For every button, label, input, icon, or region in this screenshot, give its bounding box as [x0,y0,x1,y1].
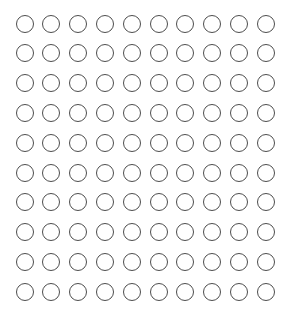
circle-grid [0,0,292,319]
circle-icon [203,193,221,211]
circle-icon [123,74,141,92]
circle-icon [123,164,141,182]
circle-icon [123,104,141,122]
circle-icon [230,223,248,241]
circle-icon [150,253,168,271]
circle-icon [150,164,168,182]
circle-icon [96,134,114,152]
circle-icon [230,283,248,301]
circle-icon [96,193,114,211]
circle-icon [16,253,34,271]
circle-icon [16,283,34,301]
circle-icon [230,253,248,271]
circle-icon [150,134,168,152]
circle-icon [230,134,248,152]
circle-icon [42,164,60,182]
circle-icon [203,253,221,271]
circle-icon [150,44,168,62]
circle-icon [203,15,221,33]
circle-icon [69,15,87,33]
circle-icon [96,15,114,33]
circle-icon [69,44,87,62]
circle-icon [16,15,34,33]
circle-icon [257,223,275,241]
circle-icon [257,134,275,152]
circle-icon [257,104,275,122]
circle-icon [69,223,87,241]
circle-icon [257,193,275,211]
circle-icon [150,193,168,211]
circle-icon [69,134,87,152]
circle-icon [16,104,34,122]
circle-icon [176,283,194,301]
circle-icon [230,74,248,92]
circle-icon [96,104,114,122]
circle-icon [123,44,141,62]
circle-icon [96,223,114,241]
circle-icon [176,15,194,33]
circle-icon [69,104,87,122]
circle-icon [176,253,194,271]
circle-icon [69,253,87,271]
circle-icon [42,193,60,211]
circle-icon [123,223,141,241]
circle-icon [123,134,141,152]
circle-icon [176,104,194,122]
circle-icon [230,193,248,211]
circle-icon [203,74,221,92]
circle-icon [150,104,168,122]
circle-icon [16,164,34,182]
circle-icon [123,253,141,271]
circle-icon [42,15,60,33]
circle-icon [257,74,275,92]
circle-icon [69,164,87,182]
circle-icon [123,283,141,301]
circle-icon [42,74,60,92]
circle-icon [230,164,248,182]
circle-icon [42,223,60,241]
circle-icon [203,223,221,241]
circle-icon [257,253,275,271]
circle-icon [42,283,60,301]
circle-icon [42,104,60,122]
circle-icon [69,193,87,211]
circle-icon [230,44,248,62]
circle-icon [203,283,221,301]
circle-icon [96,283,114,301]
circle-icon [16,223,34,241]
circle-icon [176,223,194,241]
circle-icon [230,15,248,33]
circle-icon [176,74,194,92]
circle-icon [150,223,168,241]
circle-icon [96,44,114,62]
circle-icon [96,253,114,271]
circle-icon [203,134,221,152]
circle-icon [176,164,194,182]
circle-icon [123,193,141,211]
circle-icon [96,164,114,182]
circle-icon [96,74,114,92]
circle-icon [257,164,275,182]
circle-icon [16,193,34,211]
circle-icon [257,15,275,33]
circle-icon [150,15,168,33]
circle-icon [42,253,60,271]
circle-icon [69,283,87,301]
circle-icon [176,44,194,62]
circle-icon [150,74,168,92]
circle-icon [123,15,141,33]
circle-icon [16,134,34,152]
circle-icon [42,44,60,62]
circle-icon [150,283,168,301]
circle-icon [203,44,221,62]
circle-icon [69,74,87,92]
circle-icon [16,74,34,92]
circle-icon [257,283,275,301]
circle-icon [203,104,221,122]
circle-icon [42,134,60,152]
circle-icon [176,193,194,211]
circle-icon [230,104,248,122]
circle-icon [176,134,194,152]
circle-icon [257,44,275,62]
circle-icon [16,44,34,62]
